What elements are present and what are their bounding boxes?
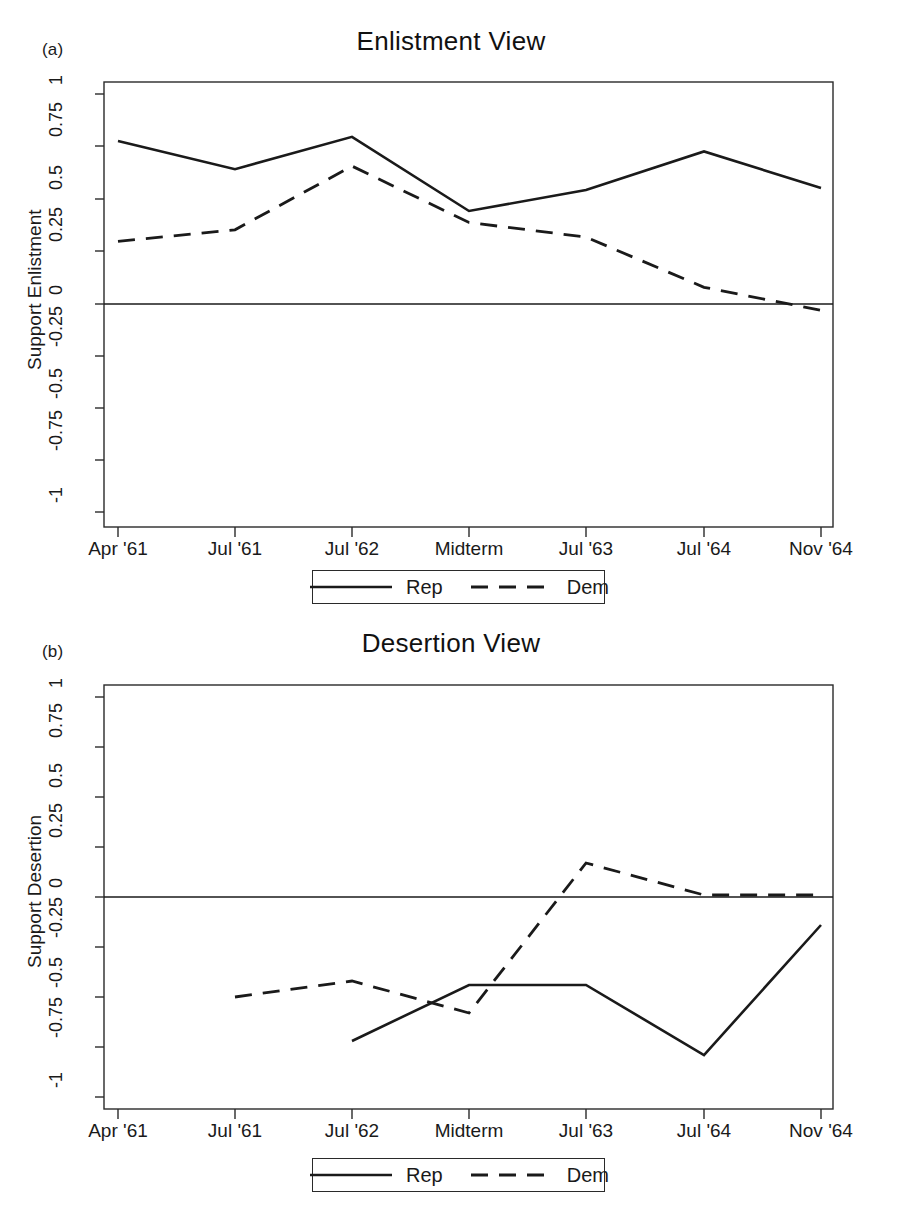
series-line-dem-b: [235, 863, 821, 1013]
series-line-rep-b: [352, 925, 821, 1055]
legend-a: Rep Dem: [312, 570, 605, 604]
legend-label-dem-a: Dem: [567, 576, 609, 599]
series-line-rep-a: [118, 137, 821, 211]
legend-swatch-dashed-icon: [469, 581, 555, 593]
x-tick-label: Nov '64: [789, 1120, 853, 1142]
legend-swatch-solid-icon: [308, 1169, 394, 1181]
legend-label-dem-b: Dem: [567, 1164, 609, 1187]
x-axis-ticks-b: [118, 1109, 821, 1119]
x-tick-label: Midterm: [435, 538, 504, 560]
legend-item-dem-b: Dem: [469, 1164, 609, 1187]
x-tick-label: Jul '61: [208, 1120, 262, 1142]
legend-item-rep-b: Rep: [308, 1164, 443, 1187]
x-tick-label: Jul '64: [677, 1120, 731, 1142]
plot-area-a: [0, 0, 902, 614]
figure-container: (a) Enlistment View Support Enlistment: [0, 0, 902, 1214]
x-tick-label: Apr '61: [88, 538, 148, 560]
x-tick-label: Jul '64: [677, 538, 731, 560]
legend-label-rep-a: Rep: [406, 576, 443, 599]
x-tick-label: Midterm: [435, 1120, 504, 1142]
x-tick-label: Apr '61: [88, 1120, 148, 1142]
x-tick-label: Jul '62: [325, 538, 379, 560]
legend-swatch-solid-icon: [308, 581, 394, 593]
x-tick-label: Jul '63: [559, 538, 613, 560]
x-tick-label: Jul '62: [325, 1120, 379, 1142]
series-line-dem-a: [118, 166, 821, 310]
legend-item-dem-a: Dem: [469, 576, 609, 599]
chart-panel-a: (a) Enlistment View Support Enlistment: [0, 0, 902, 614]
chart-panel-b: (b) Desertion View Support Desertion: [0, 600, 902, 1214]
y-axis-ticks-a: [95, 94, 104, 512]
legend-item-rep-a: Rep: [308, 576, 443, 599]
legend-swatch-dashed-icon: [469, 1169, 555, 1181]
x-tick-label: Jul '63: [559, 1120, 613, 1142]
x-axis-ticks-a: [118, 527, 821, 537]
x-tick-label: Jul '61: [208, 538, 262, 560]
y-axis-ticks-b: [95, 697, 104, 1097]
x-tick-label: Nov '64: [789, 538, 853, 560]
legend-label-rep-b: Rep: [406, 1164, 443, 1187]
legend-b: Rep Dem: [312, 1158, 605, 1192]
